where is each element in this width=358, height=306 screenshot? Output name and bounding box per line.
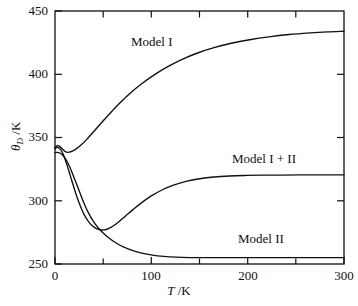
y-axis-unit-gap bbox=[8, 135, 23, 138]
ytick-label-300: 300 bbox=[8, 194, 48, 207]
y-axis-symbol: θ bbox=[8, 144, 23, 150]
x-axis-unit-text: /K bbox=[178, 283, 191, 298]
annotation-model-2: Model II bbox=[238, 232, 284, 245]
ytick-label-400: 400 bbox=[8, 67, 48, 80]
chart-background bbox=[0, 0, 358, 306]
xtick-label-300: 300 bbox=[324, 269, 358, 282]
x-axis-title: T /K bbox=[0, 284, 358, 297]
chart-plot-area bbox=[0, 0, 358, 306]
annotation-model-1-plus-2: Model I + II bbox=[232, 152, 296, 165]
chart-figure: 450 400 350 300 250 0 100 200 300 T /K θ… bbox=[0, 0, 358, 306]
xtick-label-0: 0 bbox=[35, 269, 75, 282]
y-axis-title: θD /K bbox=[9, 91, 26, 181]
y-axis-subscript: D bbox=[15, 138, 25, 145]
y-axis-unit-text: /K bbox=[8, 122, 23, 135]
annotation-model-1: Model I bbox=[131, 35, 173, 48]
ytick-label-450: 450 bbox=[8, 4, 48, 17]
xtick-label-200: 200 bbox=[228, 269, 268, 282]
xtick-label-100: 100 bbox=[131, 269, 171, 282]
